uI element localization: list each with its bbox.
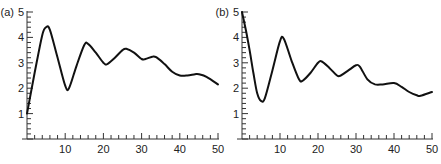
x-tick-label: 50: [212, 143, 224, 155]
x-tick-label: 40: [174, 143, 186, 155]
panel-a: 123451020304050(a): [1, 6, 225, 155]
x-tick-label: 40: [388, 143, 400, 155]
chart-canvas: 123451020304050(a) 123451020304050(b): [0, 0, 441, 164]
x-tick-label: 20: [97, 143, 109, 155]
y-tick-label: 4: [233, 31, 239, 43]
x-tick-label: 30: [135, 143, 147, 155]
y-tick-label: 2: [233, 82, 239, 94]
y-tick-label: 5: [18, 6, 24, 18]
panel-label: (a): [1, 6, 14, 18]
y-tick-label: 3: [233, 57, 239, 69]
x-tick-label: 10: [274, 143, 286, 155]
y-tick-label: 5: [233, 6, 239, 18]
panel-label: (b): [216, 6, 229, 18]
x-tick-label: 50: [426, 143, 438, 155]
panel-b: 123451020304050(b): [216, 6, 439, 155]
data-line: [27, 26, 218, 113]
data-line: [242, 12, 432, 102]
y-tick-label: 1: [18, 108, 24, 120]
y-tick-label: 2: [18, 82, 24, 94]
x-tick-label: 30: [350, 143, 362, 155]
y-tick-label: 3: [18, 57, 24, 69]
figure: 123451020304050(a) 123451020304050(b): [0, 0, 441, 164]
y-tick-label: 1: [233, 108, 239, 120]
y-tick-label: 4: [18, 31, 24, 43]
x-tick-label: 20: [312, 143, 324, 155]
x-tick-label: 10: [59, 143, 71, 155]
